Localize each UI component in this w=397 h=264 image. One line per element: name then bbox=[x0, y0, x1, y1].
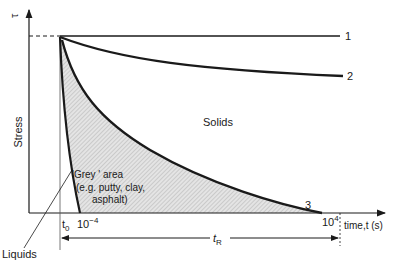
x-axis-label: time,t (s) bbox=[344, 220, 383, 231]
curve-3-label: 3 bbox=[305, 199, 311, 211]
liquids-label: Liquids bbox=[2, 248, 37, 260]
relaxation-time-label: tR bbox=[213, 232, 222, 247]
t-high-label: 104 bbox=[322, 214, 339, 228]
curve-2 bbox=[60, 37, 343, 76]
y-axis-label: Stress bbox=[12, 116, 24, 148]
curve-1-label: 1 bbox=[345, 30, 351, 42]
solids-label: Solids bbox=[203, 116, 233, 128]
grey-area-label-3: asphalt) bbox=[92, 194, 128, 205]
t0-label: t0 bbox=[62, 218, 70, 233]
grey-area-label-1: 'Grey ' area bbox=[72, 169, 123, 180]
liquids-leader-line bbox=[24, 170, 72, 248]
grey-area-label-2: (e.g. putty, clay, bbox=[76, 182, 145, 193]
t-low-label: 10−4 bbox=[77, 216, 99, 230]
curve-2-label: 2 bbox=[347, 70, 353, 82]
y-axis-symbol: τ bbox=[8, 13, 20, 18]
stress-relaxation-diagram: τ Stress 1 2 3 Solids 'Grey ' area (e.g.… bbox=[0, 0, 397, 264]
